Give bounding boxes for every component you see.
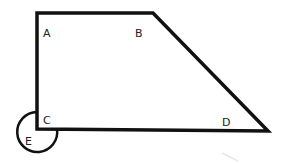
label-e: E — [25, 135, 32, 148]
label-d: D — [222, 116, 230, 129]
label-b: B — [135, 27, 143, 40]
faint-mark — [222, 153, 238, 161]
trapezoid-diagram: A B C D E — [0, 0, 282, 163]
label-c: C — [43, 114, 51, 127]
label-a: A — [43, 27, 51, 40]
trapezoid-abdc — [37, 13, 268, 131]
